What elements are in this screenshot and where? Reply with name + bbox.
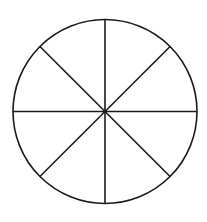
divided-circle-diagram xyxy=(0,0,207,222)
center-point xyxy=(103,110,106,113)
